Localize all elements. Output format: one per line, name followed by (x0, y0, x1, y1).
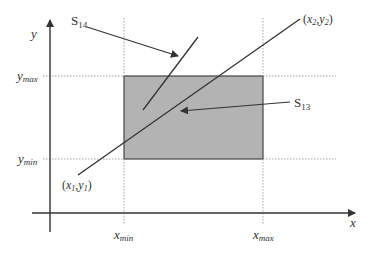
clipping-diagram: y x S14 S13 ymax ymin xmin xmax (x1,y1) … (0, 0, 379, 254)
endpoint-p1-label: (x1,y1) (62, 178, 92, 193)
s14-label: S14 (71, 13, 88, 30)
y-max-label: ymax (15, 68, 38, 84)
x-max-label: xmax (252, 227, 274, 243)
clip-window (124, 76, 263, 159)
y-min-label: ymin (16, 151, 38, 167)
s13-label: S13 (294, 95, 311, 112)
s14-pointer-arrow (87, 27, 178, 56)
y-axis-label: y (29, 26, 37, 41)
endpoint-p2-label: (x2,y2) (303, 12, 333, 27)
x-min-label: xmin (113, 227, 134, 243)
x-axis-label: x (349, 215, 356, 230)
